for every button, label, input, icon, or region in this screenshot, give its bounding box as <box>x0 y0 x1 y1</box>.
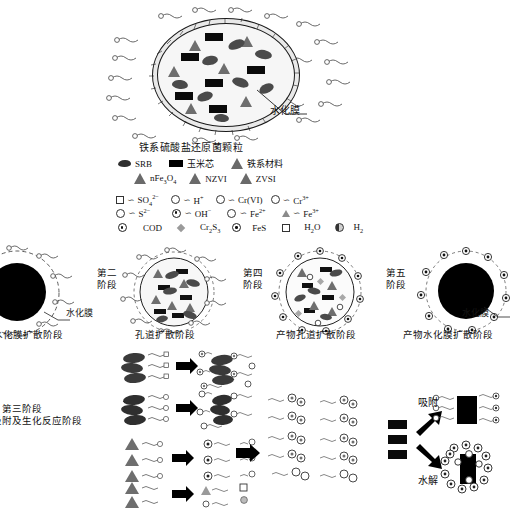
triangle-icon <box>189 173 201 184</box>
triangle-small-icon <box>282 210 290 217</box>
hydration-film-label: 水化膜 <box>270 105 300 116</box>
reaction-row-2 <box>121 391 252 429</box>
hydrolysis-label: 水解 <box>418 475 438 486</box>
diamond-icon <box>177 224 185 232</box>
iron-material-particle <box>240 96 252 107</box>
legend-label-cr3plus: Cr3+ <box>293 194 309 206</box>
iron-material-triangle-icon <box>231 158 243 169</box>
stage-3-number: 第三阶段 <box>0 403 82 415</box>
legend-materials-row-2: nFe3O4 NZVI ZVSI <box>134 173 276 185</box>
stage-2-number: 第二 阶段 <box>97 267 117 290</box>
srb-blob-icon <box>118 160 131 167</box>
legend-ions-row-1: ∽ SO42− ∽ H+ ∽ Cr(VI) ∽ Cr3+ <box>116 193 309 207</box>
legend-label-water: H2O <box>304 222 320 234</box>
stage-5-annotation: 水化膜 <box>462 308 489 319</box>
stage-3-label: 第三阶段 吸附及生化反应阶段 <box>0 403 82 426</box>
corn-cob-particle <box>175 92 193 100</box>
reaction-row-4 <box>125 482 247 510</box>
legend-label-hydroxide: OH− <box>195 207 212 219</box>
stage-2-number-line1: 第二 <box>97 267 117 279</box>
reaction-transformations <box>118 352 388 510</box>
legend-ions-row-2: ∽ S2− ∽ OH− ∽ Fe2+ ∽ Fe3+ <box>116 207 319 219</box>
corn-cob-particle <box>205 79 223 87</box>
legend-label-cod: COD <box>143 223 162 233</box>
product-cluster <box>268 394 357 482</box>
circle-half-icon <box>335 223 344 232</box>
adsorption-arrow <box>416 411 442 436</box>
circle-open-icon <box>116 209 125 218</box>
stage-5-number-line2: 阶段 <box>386 279 406 291</box>
adsorption-label: 吸附 <box>418 397 438 408</box>
square-open-icon <box>282 224 290 232</box>
adsorption-hydrolysis-panel: 吸附 水解 <box>372 392 506 504</box>
circle-dot-icon <box>118 223 127 232</box>
stage-1-figure <box>0 252 90 332</box>
hydrolysis-arrow <box>416 444 442 469</box>
corn-cob-particle <box>209 105 227 113</box>
stage-2-number-line2: 阶段 <box>97 279 117 291</box>
stage-4-number-line1: 第四 <box>243 267 263 279</box>
hydrolysis-product <box>441 441 492 493</box>
reaction-transformations-panel <box>118 352 388 510</box>
iron-material-particle <box>185 103 197 114</box>
stage-1-annotation: 水化膜 <box>66 308 93 319</box>
legend-label-crvi: Cr(VI) <box>238 195 263 205</box>
reaction-big-arrow <box>236 444 260 462</box>
iron-material-particle <box>218 63 230 74</box>
circle-open-icon <box>216 195 225 204</box>
circle-open-icon <box>227 209 236 218</box>
corn-cob-particle <box>181 53 199 61</box>
reaction-row-3 <box>125 438 255 482</box>
iron-material-particle <box>189 40 201 51</box>
legend-ions-row-3: COD Cr2S3 FeS H2O H2 <box>118 222 363 234</box>
legend-label-nzvi: NZVI <box>205 174 227 184</box>
legend-materials-row-1: SRB 玉米芯 铁系材料 <box>118 157 283 170</box>
stage-5-caption: 产物水化膜扩散阶段 <box>403 329 493 341</box>
triangle-icon <box>240 173 252 184</box>
legend-label-cr2s3: Cr2S3 <box>200 222 220 234</box>
circle-dot-icon <box>232 223 241 232</box>
stage-2-granule <box>128 251 220 333</box>
triangle-icon <box>134 173 146 184</box>
legend-label-zvsi: ZVSI <box>256 174 276 184</box>
legend-label-srb: SRB <box>135 159 152 169</box>
legend-label-iron-material: 铁系材料 <box>247 157 283 170</box>
stage-4-caption: 产物孔道扩散阶段 <box>276 329 356 341</box>
reaction-row-1 <box>121 351 255 389</box>
iron-material-particle <box>168 66 180 77</box>
legend-label-hydrogen: H2 <box>354 222 364 234</box>
legend-label-fe3plus: Fe3+ <box>303 207 319 219</box>
legend-label-nfe3o4: nFe3O4 <box>150 173 176 185</box>
stage-5-number: 第五 阶段 <box>386 267 406 290</box>
stage-4-number: 第四 阶段 <box>243 267 263 290</box>
top-panel-title: 铁系硫酸盐还原菌颗粒 <box>139 139 243 154</box>
stage-4-granule <box>274 251 366 333</box>
stage-1-caption: 水化膜扩散阶段 <box>0 329 63 341</box>
corn-cob-rect-icon <box>169 160 183 167</box>
adsorption-hydrolysis-arrows <box>372 392 506 504</box>
circle-dot-icon <box>172 209 181 218</box>
legend-label-sulfide: S2− <box>139 207 151 219</box>
legend-label-fe2plus: Fe2+ <box>250 207 266 219</box>
stage-5-product-shell <box>420 251 512 333</box>
stage-4-number-line2: 阶段 <box>243 279 263 291</box>
stage-5-number-line1: 第五 <box>386 267 406 279</box>
legend-label-fes: FeS <box>252 223 266 233</box>
adsorption-product <box>433 393 499 424</box>
stage-5-figure <box>420 251 512 333</box>
corn-cob-particle <box>247 66 265 74</box>
legend-panel: SRB 玉米芯 铁系材料 nFe3O4 NZVI ZVSI ∽ SO42− ∽ … <box>0 154 506 242</box>
top-granule-panel: 水化膜 铁系硫酸盐还原菌颗粒 <box>0 0 506 155</box>
legend-label-corncob: 玉米芯 <box>187 157 214 170</box>
circle-open-icon <box>171 195 180 204</box>
circle-open-icon <box>271 195 280 204</box>
stage-4-figure <box>274 251 366 333</box>
stage-2-caption: 孔道扩散阶段 <box>135 329 195 341</box>
legend-label-hplus: H+ <box>193 194 203 206</box>
stage-row: 水化膜 水化膜扩散阶段 第二 阶段 <box>0 246 506 346</box>
square-open-icon <box>116 196 124 204</box>
legend-label-sulfate: SO42− <box>138 193 159 207</box>
corn-cob-particle <box>205 33 223 41</box>
stage-3-caption: 吸附及生化反应阶段 <box>0 415 82 427</box>
stage-2-figure <box>128 251 220 333</box>
